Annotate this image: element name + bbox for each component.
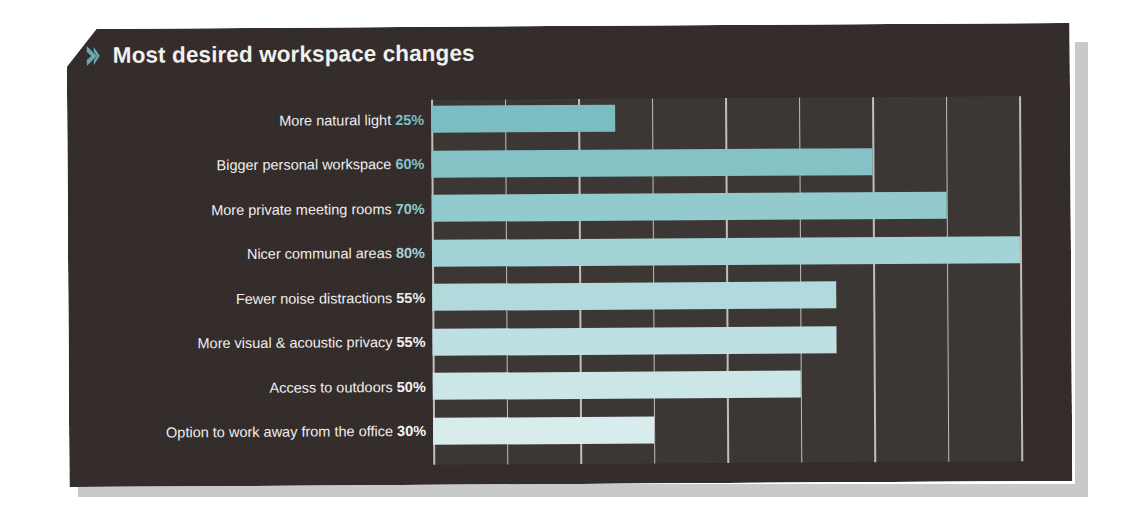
- category-label: Access to outdoors50%: [89, 379, 426, 396]
- panel-shadow-right: [1075, 42, 1088, 497]
- chevron-right-icon: [85, 45, 101, 67]
- category-value-label: 70%: [396, 200, 425, 216]
- category-value-label: 30%: [397, 423, 426, 439]
- category-value-label: 80%: [396, 245, 425, 261]
- category-value-label: 55%: [396, 289, 425, 305]
- category-label-text: More natural light: [279, 112, 391, 129]
- bar-chart: More natural light25%Bigger personal wor…: [67, 23, 1073, 487]
- bar: [431, 148, 872, 178]
- category-label: Option to work away from the office30%: [89, 424, 426, 441]
- bar: [432, 281, 836, 310]
- category-label-text: Nicer communal areas: [247, 245, 392, 262]
- category-label-text: Option to work away from the office: [166, 423, 393, 440]
- category-value-label: 60%: [395, 156, 424, 172]
- category-value-label: 50%: [397, 378, 426, 394]
- category-label: Nicer communal areas80%: [88, 246, 425, 263]
- category-label-text: Access to outdoors: [269, 379, 392, 396]
- category-label: More natural light25%: [87, 112, 424, 129]
- gridline-70: [946, 97, 950, 462]
- page-title: Most desired workspace changes: [113, 41, 475, 69]
- bar: [432, 192, 947, 222]
- bar: [433, 416, 654, 444]
- bar: [433, 371, 801, 400]
- category-label: More private meeting rooms70%: [88, 201, 425, 218]
- category-label: Fewer noise distractions55%: [88, 290, 425, 307]
- bar: [432, 236, 1020, 267]
- panel-header: Most desired workspace changes: [85, 41, 475, 69]
- chart-panel: Most desired workspace changes More natu…: [67, 23, 1073, 487]
- category-labels: More natural light25%Bigger personal wor…: [87, 100, 426, 467]
- chart-stage: Most desired workspace changes More natu…: [0, 0, 1127, 521]
- category-label-text: More visual & acoustic privacy: [197, 334, 392, 351]
- category-label-text: Fewer noise distractions: [236, 290, 392, 307]
- category-label: More visual & acoustic privacy55%: [88, 335, 425, 352]
- category-label-text: More private meeting rooms: [211, 201, 392, 218]
- category-label: Bigger personal workspace60%: [87, 157, 424, 174]
- bar: [432, 326, 836, 355]
- plot-area: [431, 96, 1021, 465]
- gridline-60: [872, 97, 876, 462]
- category-value-label: 55%: [396, 334, 425, 350]
- category-value-label: 25%: [395, 111, 424, 127]
- category-label-text: Bigger personal workspace: [216, 156, 391, 173]
- gridline-80: [1019, 96, 1023, 461]
- bar: [431, 105, 615, 133]
